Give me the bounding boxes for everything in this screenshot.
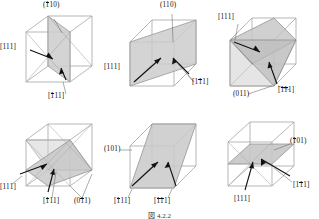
panel-1: (110) [111] [111]	[4, 2, 108, 108]
plane-rest: 011	[236, 90, 247, 98]
dir-rest: 111	[3, 183, 14, 191]
overbar-1: 1	[299, 182, 303, 189]
panel-6-plane-label: (101)	[290, 138, 307, 145]
dir-rest: 111	[221, 13, 232, 21]
panel-3-dir-label-2: [111]	[278, 87, 294, 94]
overbar-1: 1	[51, 93, 55, 100]
overbar-1: 1	[46, 2, 50, 9]
panel-6-dir-label-1: [111]	[234, 196, 250, 203]
plane-rest: 10	[49, 1, 57, 9]
panel-6-cube	[212, 112, 318, 212]
overbar-1: 1	[117, 198, 121, 205]
dir-rest: 11	[120, 197, 127, 205]
dir-rest: 1	[164, 197, 168, 205]
panel-4-plane-label: (011)	[74, 198, 91, 205]
panel-6: (101) [111] [111]	[212, 112, 318, 212]
plane-rest: 101	[107, 145, 118, 153]
panel-5: (101) [111] [111]	[106, 112, 214, 212]
figure-caption: 図 4.2.2	[0, 210, 319, 219]
panel-4-dir-label-1: [111]	[0, 184, 16, 191]
crystallographic-slip-systems-figure: (110) [111] [111] (110) [111] [111	[0, 0, 319, 219]
panel-2: (110) [111] [111]	[106, 2, 214, 108]
dir-rest: 111	[107, 63, 118, 71]
panel-5-dir-label-2: [111]	[154, 198, 170, 205]
panel-3-dir-label-1: [111]	[218, 14, 234, 21]
plane-rest: 1	[84, 197, 88, 205]
dir-rest: 11	[49, 197, 56, 205]
overbar-1: 1	[80, 198, 84, 205]
overbar-11: 11	[157, 198, 164, 205]
panel-2-dir-label-1: [111]	[104, 64, 120, 71]
panel-6-dir-label-2: [111]	[293, 182, 310, 189]
dir-rest: 11	[54, 92, 61, 100]
overbar-1: 1	[198, 79, 202, 86]
panel-3-plane-label: (011)	[233, 91, 249, 98]
panel-1-plane	[48, 16, 70, 82]
dir-rest: 1	[303, 181, 307, 189]
panel-1-dir-label-2: [111]	[48, 93, 64, 100]
panel-5-plane-label: (101)	[104, 146, 121, 153]
panel-4-dir-label-2: [111]	[43, 198, 59, 205]
panel-2-dir-label-2: [111]	[192, 79, 209, 86]
panel-4: [111] [111] (011)	[4, 112, 110, 212]
dir-rest: 111	[3, 43, 14, 51]
panel-1-dir-label-1: [111]	[0, 44, 16, 51]
plane-rest: 110	[163, 1, 174, 9]
panel-3: [111] (011) [111]	[212, 2, 318, 108]
overbar-11: 11	[281, 87, 288, 94]
panel-1-plane-label: (110)	[43, 2, 60, 9]
overbar-1: 1	[46, 198, 50, 205]
panel-2-plane-label: (110)	[160, 2, 176, 9]
dir-rest: 1	[288, 86, 292, 94]
panel-5-dir-label-1: [111]	[114, 198, 130, 205]
plane-rest: 01	[296, 137, 304, 145]
overbar-1: 1	[293, 138, 297, 145]
dir-rest: 111	[237, 195, 248, 203]
panel-2-cube	[106, 2, 214, 108]
dir-rest: 1	[202, 78, 206, 86]
